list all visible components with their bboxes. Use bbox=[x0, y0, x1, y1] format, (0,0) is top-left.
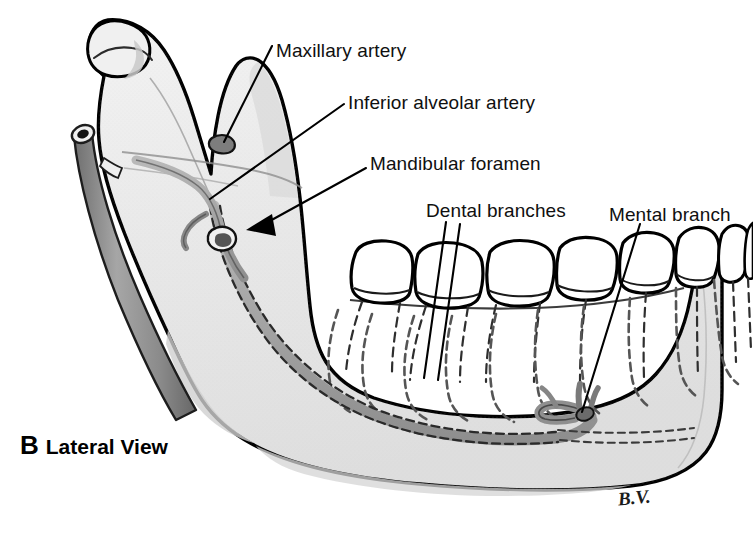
label-maxillary-artery: Maxillary artery bbox=[276, 40, 406, 62]
mental-twig-1 bbox=[579, 384, 581, 410]
panel-letter: B bbox=[20, 432, 39, 458]
panel-caption: B Lateral View bbox=[20, 432, 168, 459]
label-dental-branches: Dental branches bbox=[426, 200, 566, 222]
mandible-illustration bbox=[0, 0, 753, 546]
mandibular-foramen-inner bbox=[215, 233, 232, 247]
panel-title: Lateral View bbox=[46, 435, 168, 459]
anatomical-figure: Maxillary artery Inferior alveolar arter… bbox=[0, 0, 753, 546]
label-mandibular-foramen: Mandibular foramen bbox=[370, 153, 541, 175]
maxillary-artery-stub bbox=[209, 135, 235, 153]
label-inferior-alveolar-artery: Inferior alveolar artery bbox=[348, 92, 535, 114]
artist-signature: B.V. bbox=[617, 486, 651, 511]
label-mental-branch: Mental branch bbox=[609, 204, 731, 226]
